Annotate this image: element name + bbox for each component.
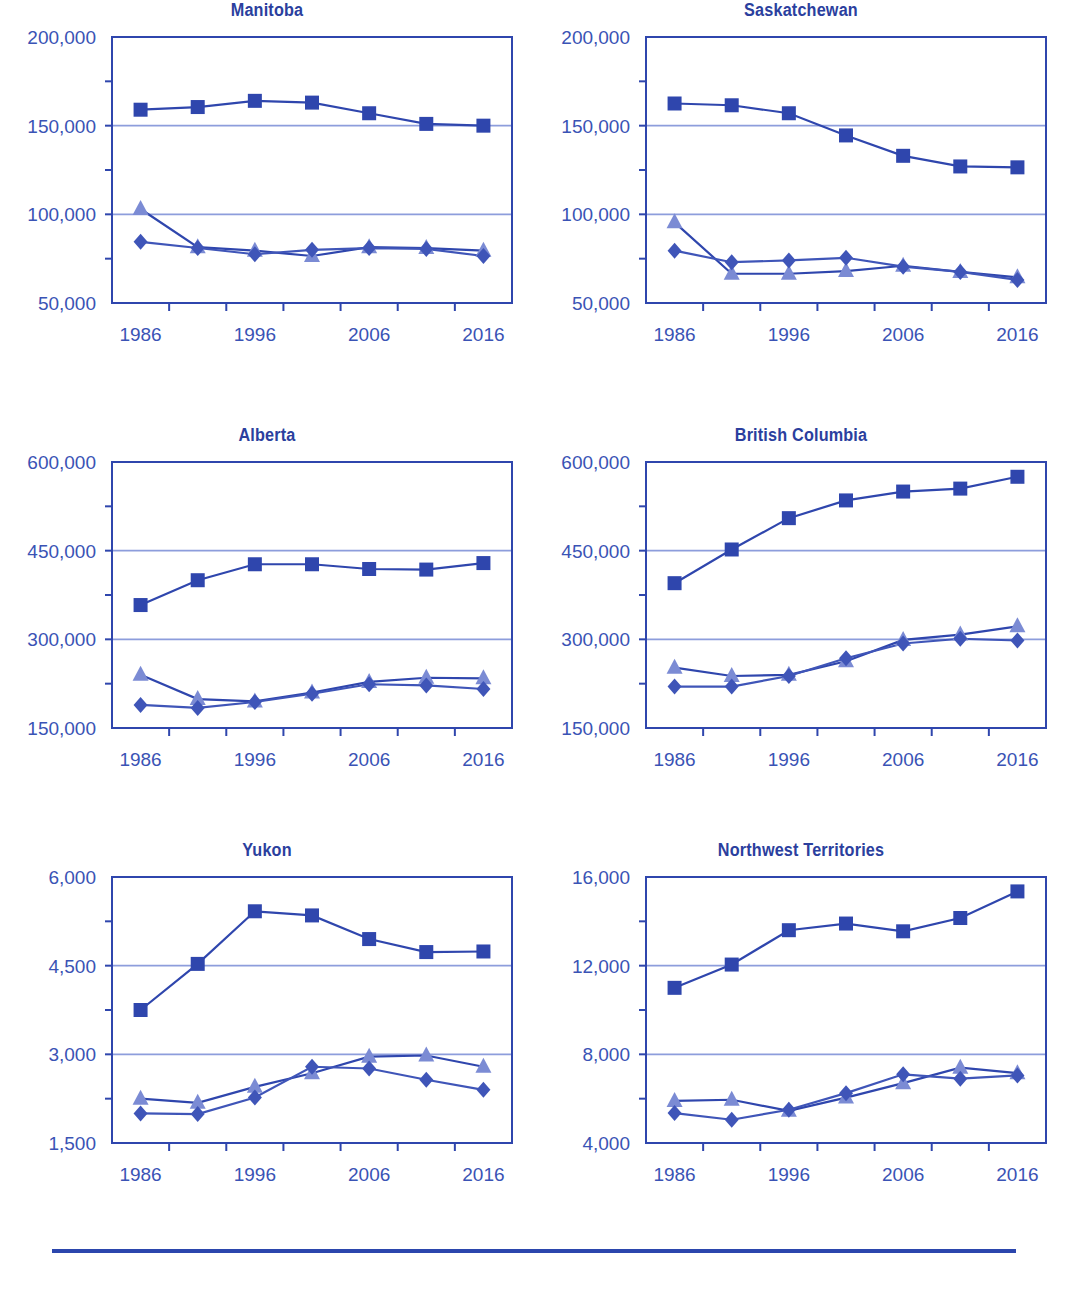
chart-title: Northwest Territories: [561, 840, 1042, 861]
data-point-series-square: [668, 97, 682, 111]
data-point-series-square: [134, 103, 148, 117]
y-tick-label: 3,000: [48, 1044, 96, 1065]
plot-area: 1,5003,0004,5006,0001986199620062016: [0, 861, 534, 1221]
data-point-series-square: [476, 119, 490, 133]
x-tick-label: 2016: [996, 749, 1038, 770]
y-tick-label: 100,000: [27, 204, 96, 225]
data-point-series-square: [191, 957, 205, 971]
data-point-series-triangle: [133, 200, 149, 215]
data-point-series-square: [1010, 160, 1024, 174]
y-tick-label: 300,000: [27, 629, 96, 650]
chart-panel-alberta: Alberta150,000300,000450,000600,00019861…: [0, 425, 534, 840]
data-point-series-diamond: [896, 635, 910, 651]
data-point-series-diamond: [134, 1105, 148, 1121]
chart-panel-british-columbia: British Columbia150,000300,000450,000600…: [534, 425, 1068, 840]
data-point-series-triangle: [1009, 617, 1025, 632]
x-tick-label: 2016: [462, 324, 504, 345]
data-point-series-square: [953, 482, 967, 496]
data-point-series-diamond: [1010, 272, 1024, 288]
data-point-series-square: [725, 98, 739, 112]
data-point-series-diamond: [419, 241, 433, 257]
data-point-series-square: [476, 944, 490, 958]
data-point-series-square: [362, 106, 376, 120]
data-point-series-diamond: [782, 668, 796, 684]
x-tick-label: 1996: [768, 1164, 810, 1185]
y-tick-label: 600,000: [561, 452, 630, 473]
y-tick-label: 300,000: [561, 629, 630, 650]
x-tick-label: 2006: [882, 749, 924, 770]
data-point-series-square: [839, 917, 853, 931]
data-point-series-square: [134, 598, 148, 612]
y-tick-label: 450,000: [561, 541, 630, 562]
data-point-series-square: [419, 945, 433, 959]
x-tick-label: 1986: [119, 749, 161, 770]
data-point-series-diamond: [362, 676, 376, 692]
data-point-series-diamond: [782, 252, 796, 268]
y-tick-label: 16,000: [572, 867, 630, 888]
footer-rule: [52, 1249, 1016, 1253]
chart-panel-northwest-territories: Northwest Territories4,0008,00012,00016,…: [534, 840, 1068, 1260]
data-point-series-square: [896, 924, 910, 938]
series-line-series-square: [675, 891, 1018, 987]
chart-panel-saskatchewan: Saskatchewan50,000100,000150,000200,0001…: [534, 0, 1068, 425]
plot-area: 50,000100,000150,000200,0001986199620062…: [0, 21, 534, 381]
data-point-series-square: [668, 981, 682, 995]
data-point-series-square: [896, 485, 910, 499]
chart-title: Saskatchewan: [561, 0, 1042, 21]
data-point-series-diamond: [896, 1066, 910, 1082]
x-tick-label: 1996: [768, 749, 810, 770]
data-point-series-square: [305, 96, 319, 110]
plot-area: 150,000300,000450,000600,000198619962006…: [534, 446, 1068, 806]
chart-title: Alberta: [27, 425, 508, 446]
data-point-series-diamond: [1010, 1067, 1024, 1083]
data-point-series-square: [419, 563, 433, 577]
data-point-series-square: [305, 908, 319, 922]
chart-title: Manitoba: [27, 0, 508, 21]
x-tick-label: 1986: [119, 324, 161, 345]
data-point-series-square: [782, 511, 796, 525]
data-point-series-diamond: [839, 250, 853, 266]
data-point-series-square: [191, 573, 205, 587]
chart-title: British Columbia: [561, 425, 1042, 446]
data-point-series-diamond: [476, 1082, 490, 1098]
y-tick-label: 150,000: [561, 116, 630, 137]
x-tick-label: 2016: [462, 749, 504, 770]
data-point-series-diamond: [419, 1072, 433, 1088]
data-point-series-triangle: [133, 1090, 149, 1105]
data-point-series-square: [248, 94, 262, 108]
data-point-series-square: [839, 128, 853, 142]
data-point-series-diamond: [134, 697, 148, 713]
data-point-series-diamond: [668, 243, 682, 259]
data-point-series-diamond: [248, 694, 262, 710]
data-point-series-square: [305, 557, 319, 571]
y-tick-label: 12,000: [572, 956, 630, 977]
data-point-series-square: [191, 100, 205, 114]
chart-grid: Manitoba50,000100,000150,000200,00019861…: [0, 0, 1068, 1260]
data-point-series-diamond: [896, 259, 910, 275]
data-point-series-square: [953, 911, 967, 925]
x-tick-label: 2006: [882, 324, 924, 345]
data-point-series-diamond: [134, 234, 148, 250]
plot-area: 4,0008,00012,00016,0001986199620062016: [534, 861, 1068, 1221]
chart-panel-manitoba: Manitoba50,000100,000150,000200,00019861…: [0, 0, 534, 425]
x-tick-label: 1996: [234, 749, 276, 770]
y-tick-label: 600,000: [27, 452, 96, 473]
data-point-series-diamond: [1010, 633, 1024, 649]
data-point-series-square: [248, 557, 262, 571]
y-tick-label: 1,500: [48, 1133, 96, 1154]
data-point-series-diamond: [305, 686, 319, 702]
x-tick-label: 2006: [348, 324, 390, 345]
x-tick-label: 1986: [653, 324, 695, 345]
data-point-series-diamond: [725, 1112, 739, 1128]
chart-title: Yukon: [27, 840, 508, 861]
data-point-series-diamond: [248, 246, 262, 262]
plot-frame: [112, 37, 512, 303]
y-tick-label: 150,000: [27, 116, 96, 137]
x-tick-label: 1986: [653, 749, 695, 770]
x-tick-label: 2006: [882, 1164, 924, 1185]
y-tick-label: 50,000: [38, 293, 96, 314]
y-tick-label: 150,000: [561, 718, 630, 739]
x-tick-label: 1996: [234, 1164, 276, 1185]
y-tick-label: 450,000: [27, 541, 96, 562]
x-tick-label: 2006: [348, 1164, 390, 1185]
